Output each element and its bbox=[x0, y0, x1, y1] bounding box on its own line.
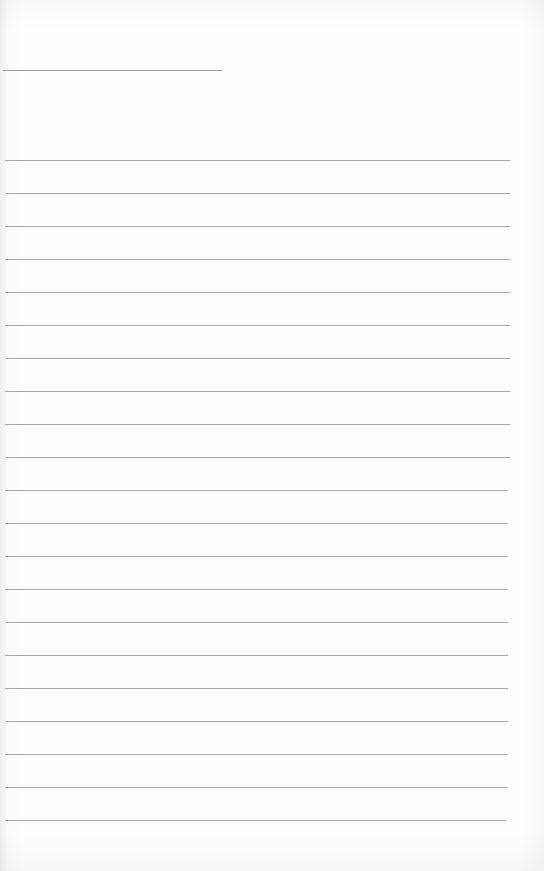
ruled-line bbox=[5, 556, 508, 557]
ruled-line bbox=[5, 160, 510, 161]
ruled-line bbox=[5, 754, 508, 755]
ruled-line bbox=[5, 424, 510, 425]
ruled-line bbox=[5, 193, 510, 194]
scan-shadow-bottom bbox=[0, 831, 544, 871]
ruled-line bbox=[5, 589, 508, 590]
ruled-line bbox=[5, 523, 508, 524]
scan-shadow-top bbox=[0, 0, 544, 30]
ruled-line bbox=[5, 655, 508, 656]
ruled-line bbox=[5, 259, 510, 260]
ruled-line bbox=[5, 820, 506, 821]
title-underline bbox=[3, 70, 222, 71]
ruled-line bbox=[5, 457, 510, 458]
ruled-line bbox=[5, 721, 508, 722]
ruled-line bbox=[5, 688, 508, 689]
ruled-line bbox=[5, 226, 510, 227]
ruled-line bbox=[5, 622, 508, 623]
ruled-line bbox=[5, 490, 508, 491]
ruled-line bbox=[5, 358, 510, 359]
ruled-line bbox=[5, 325, 510, 326]
ruled-line bbox=[5, 787, 508, 788]
ruled-line bbox=[5, 292, 510, 293]
lined-page bbox=[0, 0, 544, 871]
ruled-line bbox=[5, 391, 510, 392]
